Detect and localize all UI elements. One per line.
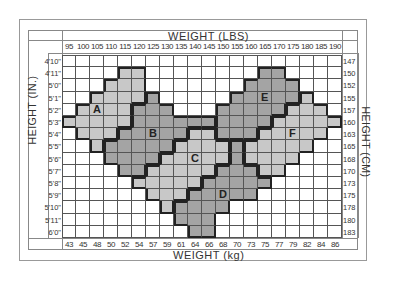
cm-tick: 180 bbox=[343, 216, 363, 225]
grid-cell bbox=[118, 226, 132, 238]
grid-cell-zone-f bbox=[314, 128, 328, 140]
grid-cell bbox=[160, 55, 174, 67]
grid-cell-zone-d bbox=[244, 165, 258, 177]
grid-cell-zone-b bbox=[160, 104, 174, 116]
grid-cell bbox=[118, 55, 132, 67]
grid-cell bbox=[104, 201, 118, 213]
grid-cell-zone-a bbox=[132, 79, 146, 91]
grid-cell bbox=[328, 128, 342, 140]
grid-cell-zone-a bbox=[104, 104, 118, 116]
cm-tick: 163 bbox=[343, 130, 363, 139]
kg-tick: 77 bbox=[272, 240, 286, 249]
grid-cell bbox=[76, 214, 90, 226]
grid-cell bbox=[258, 226, 272, 238]
grid-cell bbox=[230, 79, 244, 91]
grid-cell bbox=[174, 55, 188, 67]
grid-cell bbox=[174, 104, 188, 116]
kg-tick: 50 bbox=[104, 240, 118, 249]
kg-tick: 84 bbox=[314, 240, 328, 249]
grid-cell bbox=[132, 189, 146, 201]
kg-tick: 57 bbox=[146, 240, 160, 249]
grid-cell bbox=[244, 201, 258, 213]
grid-cell-zone-d bbox=[202, 226, 216, 238]
lbs-tick: 155 bbox=[230, 42, 244, 51]
grid-cell bbox=[62, 214, 76, 226]
grid-cell bbox=[76, 226, 90, 238]
zone-label-e: E bbox=[261, 91, 268, 103]
grid-cell-zone-c bbox=[160, 201, 174, 213]
grid-cell-zone-f bbox=[272, 165, 286, 177]
grid-cell bbox=[244, 226, 258, 238]
grid-cell bbox=[202, 104, 216, 116]
grid-cell-zone-e bbox=[244, 128, 258, 140]
kg-tick: 64 bbox=[188, 240, 202, 249]
grid-cell-zone-d bbox=[216, 201, 230, 213]
zone-label-d: D bbox=[219, 188, 227, 200]
grid-cell-zone-d bbox=[202, 177, 216, 189]
grid-cell bbox=[286, 165, 300, 177]
grid-cell bbox=[76, 79, 90, 91]
grid-cell bbox=[328, 104, 342, 116]
inch-tick: 5'4" bbox=[39, 130, 61, 139]
grid-cell bbox=[230, 67, 244, 79]
grid-cell bbox=[76, 165, 90, 177]
grid-cell bbox=[216, 67, 230, 79]
grid-cell-zone-e bbox=[272, 92, 286, 104]
grid-cell bbox=[328, 201, 342, 213]
grid-cell bbox=[104, 67, 118, 79]
grid-cell-zone-a bbox=[132, 92, 146, 104]
grid-cell-zone-c bbox=[202, 165, 216, 177]
grid-cell bbox=[328, 79, 342, 91]
grid-cell bbox=[62, 201, 76, 213]
grid-cell bbox=[90, 165, 104, 177]
grid-cell bbox=[188, 79, 202, 91]
inch-tick: 6'0" bbox=[39, 228, 61, 237]
grid-cell-zone-c bbox=[188, 177, 202, 189]
grid-cell-zone-c bbox=[160, 189, 174, 201]
grid-cell bbox=[286, 214, 300, 226]
grid-cell bbox=[90, 214, 104, 226]
inch-tick: 4'11" bbox=[39, 69, 61, 78]
cm-tick: 173 bbox=[343, 179, 363, 188]
grid-cell-zone-f bbox=[258, 140, 272, 152]
grid-cell bbox=[286, 67, 300, 79]
grid-cell bbox=[244, 214, 258, 226]
kg-tick: 82 bbox=[300, 240, 314, 249]
grid-cell bbox=[300, 226, 314, 238]
grid-cell-zone-d bbox=[230, 165, 244, 177]
grid-cell-zone-a bbox=[118, 79, 132, 91]
grid-cell bbox=[230, 55, 244, 67]
grid-cell-zone-c bbox=[160, 165, 174, 177]
kg-tick: 52 bbox=[118, 240, 132, 249]
grid-cell-zone-f bbox=[286, 153, 300, 165]
lbs-tick: 100 bbox=[76, 42, 90, 51]
lbs-tick: 160 bbox=[244, 42, 258, 51]
grid-cell bbox=[62, 92, 76, 104]
grid-cell bbox=[328, 67, 342, 79]
lbs-tick: 120 bbox=[132, 42, 146, 51]
inch-tick: 5'6" bbox=[39, 155, 61, 164]
grid-cell bbox=[272, 201, 286, 213]
grid-cell bbox=[202, 92, 216, 104]
grid-cell bbox=[118, 189, 132, 201]
grid-cell bbox=[314, 55, 328, 67]
grid-cell-zone-b bbox=[146, 92, 160, 104]
grid-cell bbox=[328, 165, 342, 177]
grid-cell-zone-b bbox=[174, 128, 188, 140]
cm-tick: 155 bbox=[343, 94, 363, 103]
grid-cell bbox=[272, 226, 286, 238]
grid-cell bbox=[104, 226, 118, 238]
grid-cell-zone-e bbox=[272, 104, 286, 116]
grid-cell bbox=[90, 153, 104, 165]
kg-tick: 59 bbox=[160, 240, 174, 249]
grid-cell-zone-b bbox=[118, 128, 132, 140]
grid-cell-zone-a bbox=[104, 79, 118, 91]
size-grid: ABCDEF bbox=[62, 55, 342, 238]
inch-tick: 5'10" bbox=[39, 203, 61, 212]
grid-cell-zone-d bbox=[202, 214, 216, 226]
grid-cell-zone-b bbox=[188, 116, 202, 128]
grid-cell bbox=[230, 214, 244, 226]
grid-cell bbox=[118, 214, 132, 226]
grid-cell-zone-b bbox=[146, 104, 160, 116]
grid-cell-zone-b bbox=[160, 116, 174, 128]
